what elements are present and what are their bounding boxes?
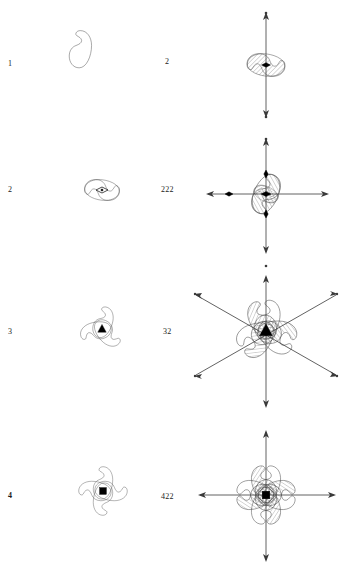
row-label-right-3: 32	[163, 327, 172, 336]
row-label-left-2: 2	[8, 185, 12, 194]
motif-comma	[69, 31, 91, 68]
symmetry-diagrams-canvas	[0, 0, 347, 575]
diagram-right-3	[194, 275, 338, 408]
diagram-right-2	[206, 138, 329, 268]
row-label-left-4: 4	[8, 491, 12, 500]
diagram-left-4	[79, 467, 128, 516]
row-label-left-3: 3	[8, 327, 12, 336]
diagram-right-4	[198, 430, 336, 562]
four-fold-axis-symbol	[100, 488, 107, 495]
point-group-symmetry-figure: 1 2 3 4 2 222 32 422	[0, 0, 347, 575]
row-label-right-2: 222	[161, 185, 174, 194]
diagram-left-2	[85, 180, 120, 201]
two-fold-axis-symbol	[225, 192, 233, 196]
row-label-right-1: 2	[165, 57, 169, 66]
diagram-left-1	[69, 31, 91, 68]
diagram-right-1	[247, 12, 285, 119]
row-label-right-4: 422	[161, 492, 174, 501]
three-fold-axis-symbol	[98, 324, 106, 332]
four-fold-axis-symbol	[262, 491, 270, 499]
motif-comma	[78, 317, 114, 345]
row-label-left-1: 1	[8, 59, 12, 68]
diagram-left-3	[78, 305, 125, 350]
motif-comma	[89, 316, 125, 350]
